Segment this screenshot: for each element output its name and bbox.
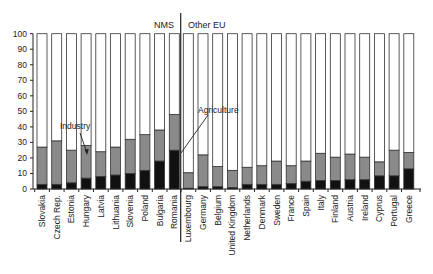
segment-industry xyxy=(389,150,399,176)
x-tick-label: Denmark xyxy=(257,194,267,229)
agriculture-label: Agriculture xyxy=(198,105,239,115)
segment-services xyxy=(257,34,267,166)
bar-france xyxy=(286,34,296,189)
group-label-other-eu: Other EU xyxy=(188,20,226,30)
segment-services xyxy=(169,34,179,115)
segment-industry xyxy=(257,166,267,185)
segment-services xyxy=(404,34,414,153)
segment-agriculture xyxy=(81,178,91,189)
y-tick-label: 10 xyxy=(18,168,28,178)
stacked-bar-chart: 0102030405060708090100 SlovakiaCzech Rep… xyxy=(0,0,433,274)
bar-denmark xyxy=(257,34,267,189)
segment-industry xyxy=(286,166,296,184)
segment-agriculture xyxy=(96,177,106,189)
bar-bulgaria xyxy=(155,34,165,189)
segment-services xyxy=(301,34,311,161)
x-tick-label: Italy xyxy=(316,194,326,210)
bar-slovenia xyxy=(125,34,135,189)
x-tick-label: Czech Rep. xyxy=(52,195,62,239)
segment-industry xyxy=(183,173,193,189)
segment-industry xyxy=(37,147,47,184)
x-tick-label: Netherlands xyxy=(242,195,252,241)
x-tick-label: Latvia xyxy=(96,195,106,218)
segment-services xyxy=(360,34,370,157)
bar-luxembourg xyxy=(183,34,193,189)
x-tick-label: Austria xyxy=(345,195,355,222)
bar-estonia xyxy=(66,34,76,189)
segment-industry xyxy=(301,161,311,181)
segment-agriculture xyxy=(155,161,165,189)
segment-industry xyxy=(52,141,62,184)
segment-industry xyxy=(242,167,252,184)
y-tick-label: 60 xyxy=(18,91,28,101)
segment-agriculture xyxy=(140,170,150,189)
segment-agriculture xyxy=(389,176,399,189)
segment-agriculture xyxy=(111,175,121,189)
bar-portugal xyxy=(389,34,399,189)
bar-greece xyxy=(404,34,414,189)
segment-industry xyxy=(404,153,414,169)
y-tick-label: 90 xyxy=(18,44,28,54)
bar-slovakia xyxy=(37,34,47,189)
bar-netherlands xyxy=(242,34,252,189)
segment-services xyxy=(198,34,208,155)
segment-services xyxy=(316,34,326,154)
y-tick-label: 20 xyxy=(18,153,28,163)
x-tick-label: Bulgaria xyxy=(155,195,165,226)
segment-agriculture xyxy=(257,184,267,189)
bar-romania xyxy=(169,34,179,189)
y-tick-label: 50 xyxy=(18,106,28,116)
segment-industry xyxy=(198,155,208,187)
segment-services xyxy=(345,34,355,154)
bar-lithuania xyxy=(111,34,121,189)
y-tick-label: 100 xyxy=(13,29,27,39)
segment-agriculture xyxy=(286,184,296,189)
segment-agriculture xyxy=(242,184,252,189)
y-tick-label: 70 xyxy=(18,75,28,85)
segment-services xyxy=(330,34,340,157)
bar-ireland xyxy=(360,34,370,189)
x-tick-label: Slovenia xyxy=(125,195,135,228)
x-tick-label: Ireland xyxy=(360,195,370,221)
segment-services xyxy=(242,34,252,168)
segment-agriculture xyxy=(169,150,179,189)
x-tick-label: Sweden xyxy=(272,195,282,226)
group-label-nms: NMS xyxy=(154,20,174,30)
segment-agriculture xyxy=(37,184,47,189)
segment-agriculture xyxy=(360,180,370,189)
segment-industry xyxy=(345,154,355,180)
x-tick-label: Hungary xyxy=(81,194,91,227)
segment-services xyxy=(286,34,296,166)
industry-label: Industry xyxy=(60,121,91,131)
segment-agriculture xyxy=(374,176,384,189)
bar-finland xyxy=(330,34,340,189)
segment-services xyxy=(111,34,121,147)
segment-agriculture xyxy=(66,183,76,189)
x-tick-label: Germany xyxy=(198,194,208,230)
segment-industry xyxy=(140,135,150,171)
x-tick-label: Romania xyxy=(169,195,179,229)
segment-industry xyxy=(213,166,223,186)
x-tick-label: Greece xyxy=(404,195,414,223)
segment-agriculture xyxy=(301,181,311,189)
y-tick-label: 30 xyxy=(18,137,28,147)
segment-services xyxy=(125,34,135,140)
y-axis: 0102030405060708090100 xyxy=(13,29,33,194)
segment-industry xyxy=(125,139,135,173)
bar-spain xyxy=(301,34,311,189)
segment-agriculture xyxy=(316,180,326,189)
x-tick-label: Cyprus xyxy=(374,195,384,222)
segment-industry xyxy=(111,147,121,175)
x-tick-label: Slovakia xyxy=(37,195,47,227)
segment-industry xyxy=(169,114,179,150)
x-tick-label: Finland xyxy=(330,195,340,223)
x-tick-label: France xyxy=(286,195,296,222)
segment-industry xyxy=(227,170,237,187)
bar-italy xyxy=(316,34,326,189)
segment-services xyxy=(183,34,193,173)
x-tick-label: Luxembourg xyxy=(183,195,193,243)
x-tick-label: Portugal xyxy=(389,195,399,227)
bar-czech-rep- xyxy=(52,34,62,189)
segment-services xyxy=(227,34,237,171)
segment-industry xyxy=(272,161,282,184)
